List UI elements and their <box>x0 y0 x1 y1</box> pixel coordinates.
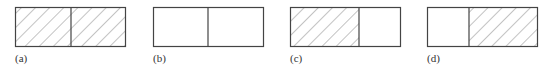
panel-b-label: (b) <box>153 52 166 64</box>
panel-d-label: (d) <box>427 52 440 64</box>
panel-d <box>428 7 539 47</box>
panel-d-right-half <box>469 7 538 47</box>
panel-a <box>15 7 126 47</box>
panel-b <box>154 8 264 47</box>
figure-canvas <box>0 0 552 67</box>
panel-a-left-half <box>15 7 71 47</box>
panel-a-label: (a) <box>15 52 27 64</box>
panel-c-left-half <box>290 7 359 47</box>
panel-a-right-half <box>71 7 126 47</box>
panel-c <box>290 7 401 47</box>
panel-c-label: (c) <box>290 52 302 64</box>
